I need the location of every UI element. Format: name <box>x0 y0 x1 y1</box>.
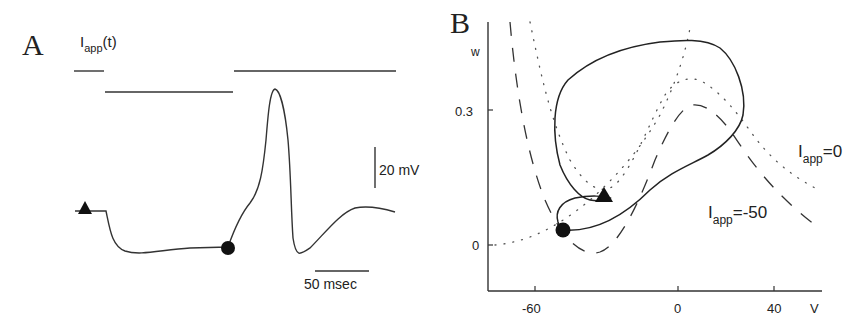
x-tick-label-40: 40 <box>767 301 781 316</box>
v-nullcline-iapp-0 <box>530 22 815 189</box>
time-scale-label: 50 msec <box>304 276 357 292</box>
x-tick-label-neg60: -60 <box>522 301 541 316</box>
panel-b: B 0.3 0 w -60 0 40 V Iapp=0 <box>450 6 842 316</box>
voltage-trace <box>75 89 395 253</box>
panel-a-label: A <box>22 28 44 61</box>
y-tick-label-0: 0 <box>472 238 479 253</box>
circle-marker <box>221 241 235 255</box>
triangle-marker <box>78 201 92 214</box>
label-iapp-neg50: Iapp=-50 <box>708 203 767 227</box>
x-axis-label: V <box>810 301 819 316</box>
panel-b-label: B <box>450 6 470 39</box>
y-axis-label: w <box>470 45 480 59</box>
trajectory <box>555 40 744 230</box>
w-nullcline <box>495 28 690 245</box>
panel-a: A Iapp(t) 20 mV 50 msec <box>22 28 420 292</box>
circle-marker-b <box>556 223 571 238</box>
x-tick-label-0: 0 <box>674 301 681 316</box>
label-iapp-0: Iapp=0 <box>798 142 842 166</box>
figure-canvas: A Iapp(t) 20 mV 50 msec B 0.3 0 w <box>0 0 867 322</box>
y-tick-label-03: 0.3 <box>455 104 473 119</box>
triangle-marker-b <box>595 187 613 202</box>
iapp-label: Iapp(t) <box>80 33 117 54</box>
voltage-scale-label: 20 mV <box>379 162 420 178</box>
